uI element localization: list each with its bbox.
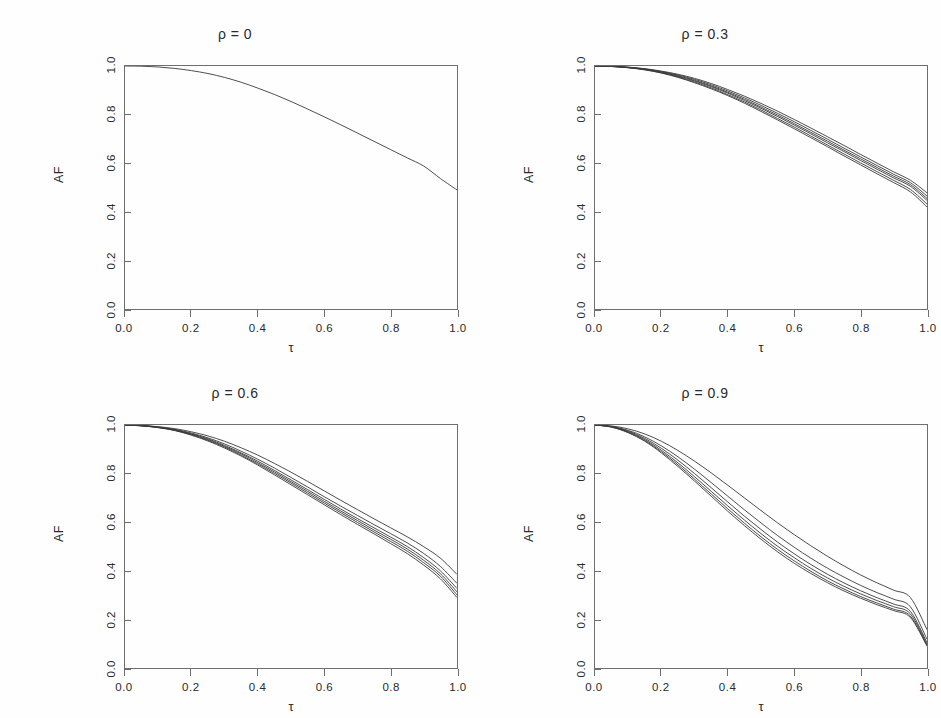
x-tick-label: 0.4: [719, 322, 737, 334]
y-tick-mark: [124, 473, 131, 474]
x-tick-label: 0.2: [652, 322, 670, 334]
chart-panel-0: ρ = 0AFτ0.00.20.40.60.81.00.00.20.40.60.…: [0, 0, 470, 359]
chart-panel-3: ρ = 0.9AFτ0.00.20.40.60.81.00.00.20.40.6…: [470, 359, 940, 718]
data-curve: [125, 425, 457, 592]
data-curve: [595, 425, 927, 639]
y-tick-mark: [124, 620, 131, 621]
data-curve: [595, 425, 927, 630]
data-curve: [595, 66, 927, 198]
x-tick-label: 0.6: [786, 322, 804, 334]
y-tick-mark: [594, 620, 601, 621]
y-tick-mark: [124, 424, 131, 425]
x-tick-mark: [458, 310, 459, 317]
chart-panel-2: ρ = 0.6AFτ0.00.20.40.60.81.00.00.20.40.6…: [0, 359, 470, 718]
y-tick-label: 0.4: [576, 562, 588, 580]
data-curve: [595, 66, 927, 207]
y-tick-label: 0.8: [576, 105, 588, 123]
y-tick-label: 0.8: [106, 105, 118, 123]
x-tick-label: 1.0: [919, 322, 937, 334]
x-tick-label: 0.6: [786, 681, 804, 693]
y-axis: 0.00.20.40.60.81.0: [470, 65, 594, 310]
x-tick-label: 0.0: [585, 681, 603, 693]
y-tick-mark: [594, 261, 601, 262]
curves-layer: [125, 425, 457, 668]
x-tick-label: 0.8: [852, 322, 870, 334]
y-tick-mark: [124, 163, 131, 164]
x-tick-mark: [861, 310, 862, 317]
y-tick-mark: [594, 163, 601, 164]
x-axis-title: τ: [594, 699, 928, 714]
x-tick-label: 0.4: [249, 322, 267, 334]
y-tick-label: 0.8: [106, 464, 118, 482]
y-tick-label: 1.0: [576, 415, 588, 433]
y-tick-mark: [594, 65, 601, 66]
x-tick-mark: [727, 310, 728, 317]
x-axis-title: τ: [594, 340, 928, 355]
y-axis: 0.00.20.40.60.81.0: [0, 65, 124, 310]
panel-title: ρ = 0.6: [0, 385, 470, 401]
y-tick-mark: [124, 522, 131, 523]
y-tick-mark: [124, 65, 131, 66]
data-curve: [125, 425, 457, 583]
data-curve: [125, 425, 457, 574]
data-curve: [125, 66, 457, 190]
y-tick-label: 0.6: [576, 513, 588, 531]
x-tick-label: 0.2: [182, 322, 200, 334]
y-tick-label: 0.6: [106, 513, 118, 531]
data-curve: [595, 66, 927, 196]
x-axis-title: τ: [124, 340, 458, 355]
data-curve: [595, 66, 927, 200]
curves-layer: [595, 425, 927, 668]
y-tick-mark: [594, 212, 601, 213]
y-tick-label: 0.0: [576, 301, 588, 319]
y-axis: 0.00.20.40.60.81.0: [0, 424, 124, 669]
y-tick-mark: [124, 114, 131, 115]
x-tick-mark: [391, 669, 392, 676]
plot-box: [594, 65, 928, 310]
y-tick-mark: [594, 310, 601, 311]
x-tick-mark: [257, 669, 258, 676]
y-tick-mark: [124, 571, 131, 572]
y-tick-label: 1.0: [576, 56, 588, 74]
x-tick-mark: [324, 669, 325, 676]
plot-box: [594, 424, 928, 669]
panel-title: ρ = 0.9: [470, 385, 940, 401]
x-tick-mark: [861, 669, 862, 676]
x-axis-title: τ: [124, 699, 458, 714]
y-tick-mark: [124, 310, 131, 311]
y-tick-mark: [594, 522, 601, 523]
y-tick-mark: [594, 473, 601, 474]
data-curve: [595, 425, 927, 645]
y-tick-label: 0.2: [106, 611, 118, 629]
data-curve: [595, 425, 927, 646]
y-tick-label: 0.0: [106, 301, 118, 319]
x-tick-label: 0.4: [249, 681, 267, 693]
data-curve: [125, 425, 457, 589]
data-curve: [595, 425, 927, 644]
plot-box: [124, 65, 458, 310]
panel-title: ρ = 0.3: [470, 26, 940, 42]
x-tick-label: 0.4: [719, 681, 737, 693]
x-tick-mark: [727, 669, 728, 676]
x-tick-mark: [928, 310, 929, 317]
y-tick-label: 0.8: [576, 464, 588, 482]
data-curve: [595, 66, 927, 204]
x-tick-mark: [660, 669, 661, 676]
curves-layer: [125, 66, 457, 309]
x-tick-mark: [124, 669, 125, 676]
x-tick-mark: [594, 310, 595, 317]
x-tick-mark: [794, 669, 795, 676]
y-tick-label: 1.0: [106, 415, 118, 433]
y-tick-mark: [124, 212, 131, 213]
y-tick-mark: [594, 669, 601, 670]
x-tick-label: 0.8: [852, 681, 870, 693]
y-axis: 0.00.20.40.60.81.0: [470, 424, 594, 669]
x-tick-mark: [594, 669, 595, 676]
figure-canvas: ρ = 0AFτ0.00.20.40.60.81.00.00.20.40.60.…: [0, 0, 941, 718]
x-tick-label: 0.6: [316, 681, 334, 693]
x-tick-label: 1.0: [449, 322, 467, 334]
x-tick-mark: [257, 310, 258, 317]
y-tick-label: 0.4: [106, 203, 118, 221]
y-tick-mark: [124, 261, 131, 262]
x-tick-label: 0.6: [316, 322, 334, 334]
